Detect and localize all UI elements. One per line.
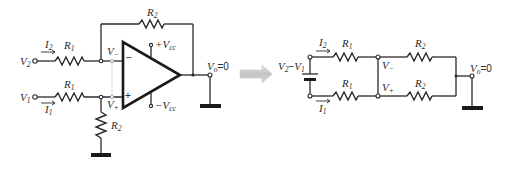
source-bottom-terminal <box>308 94 312 98</box>
v2-label: V2 <box>20 55 31 69</box>
r2-feedback-label: R2 <box>146 6 158 20</box>
i2-label-eq: I2 <box>318 36 327 50</box>
noninverting-sign: + <box>125 90 131 101</box>
right-circuit: V2−V1 Vo=0 I2 I1 R1 R1 <box>278 36 492 116</box>
v-minus-node <box>99 59 103 63</box>
r1-top-label: R1 <box>63 39 74 53</box>
r2-bottom-label-eq: R2 <box>414 77 426 91</box>
vo-label-eq: Vo=0 <box>470 62 492 76</box>
v-plus-node <box>99 95 103 99</box>
r2-ground-resistor <box>96 112 106 138</box>
v-plus-node-eq <box>376 94 380 98</box>
r2-feedback-resistor <box>139 20 164 28</box>
v-plus-label: V+ <box>107 98 119 112</box>
v-plus-label-eq: V+ <box>382 81 394 95</box>
v1-label: V1 <box>20 91 30 105</box>
source-label: V2−V1 <box>278 60 305 74</box>
battery-short-plate <box>304 78 316 81</box>
r1-bottom-label-eq: R1 <box>341 77 352 91</box>
r2-top-resistor-eq <box>407 53 432 61</box>
r1-bottom-label: R1 <box>63 78 74 92</box>
v-minus-node-eq <box>376 55 380 59</box>
source-top-terminal <box>308 55 312 59</box>
r1-bottom-resistor <box>55 93 84 101</box>
r1-top-label-eq: R1 <box>341 37 352 51</box>
v1-terminal <box>33 95 37 99</box>
r2-top-label-eq: R2 <box>414 37 426 51</box>
inverting-sign: − <box>126 52 132 63</box>
r2-bottom-resistor-eq <box>407 92 432 100</box>
ground-icon <box>462 106 483 110</box>
r2-ground-label: R2 <box>110 119 122 133</box>
ground-icon <box>91 153 111 157</box>
vo-label: Vo=0 <box>207 60 229 74</box>
circuit-diagram: − + +Vcc −Vcc Vo=0 V2 V1 I2 I1 R1 R1 R2 … <box>0 0 509 169</box>
i2-label: I2 <box>44 38 53 52</box>
r1-top-resistor-eq <box>333 53 358 61</box>
v2-terminal <box>33 59 37 63</box>
i1-label-eq: I1 <box>318 102 326 116</box>
transform-arrow-icon <box>240 65 272 83</box>
r1-bottom-resistor-eq <box>333 92 358 100</box>
ground-icon <box>200 104 221 108</box>
left-circuit: − + +Vcc −Vcc Vo=0 V2 V1 I2 I1 R1 R1 R2 … <box>20 6 229 157</box>
i1-label: I1 <box>44 103 52 117</box>
vcc-negative-label: −Vcc <box>155 99 176 113</box>
v-minus-label-eq: V− <box>382 59 394 73</box>
v-minus-label: V− <box>107 45 119 59</box>
r1-top-resistor <box>55 57 84 65</box>
vo-terminal <box>208 73 212 77</box>
vo-terminal-eq <box>470 74 474 78</box>
vcc-positive-label: +Vcc <box>155 38 176 52</box>
